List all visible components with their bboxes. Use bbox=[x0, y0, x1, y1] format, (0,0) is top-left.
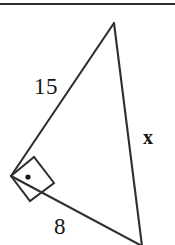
side-label-15: 15 bbox=[34, 75, 58, 98]
side-label-8: 8 bbox=[54, 215, 66, 238]
side-x-line bbox=[114, 23, 142, 245]
triangle-graphic bbox=[0, 0, 175, 245]
side-8-line bbox=[11, 176, 142, 245]
right-angle-dot bbox=[25, 174, 30, 179]
right-triangle-figure: 15 8 x bbox=[0, 0, 175, 245]
side-label-x: x bbox=[143, 127, 153, 147]
side-15-line bbox=[11, 23, 114, 176]
